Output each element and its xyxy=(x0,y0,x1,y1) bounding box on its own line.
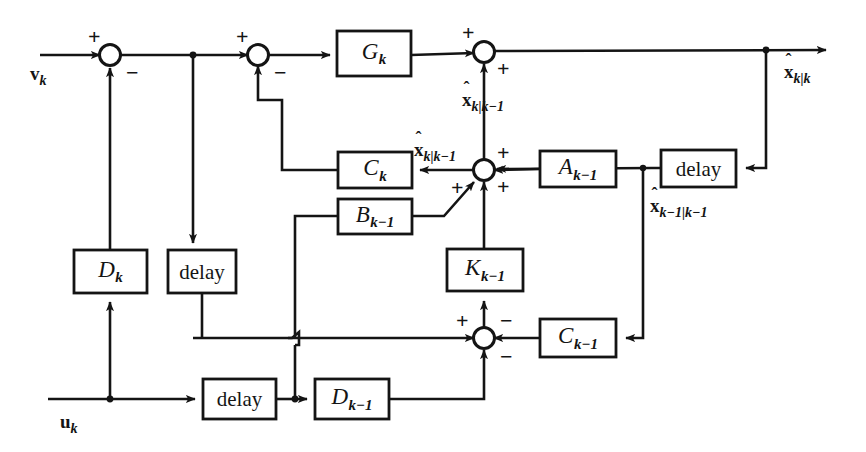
sign-sum1-1: − xyxy=(126,62,139,84)
summing-junction-sum1[interactable] xyxy=(100,45,121,66)
blocks-layer xyxy=(74,31,736,419)
branch-dot-uk xyxy=(107,396,114,403)
wire-Bk1-to-sum4 xyxy=(412,182,474,216)
sign-sum5-1: − xyxy=(500,310,513,332)
signal-label-x_k-1|k-1: ˆxk−1|k−1 xyxy=(650,196,708,220)
signal-label-x_k|k-1_a: ˆxk|k−1 xyxy=(462,90,504,114)
signal-label-x_k|k: ˆxk|k xyxy=(784,62,811,86)
block-label-D_k: Dk xyxy=(98,258,123,286)
summing-junction-sum2[interactable] xyxy=(248,45,269,66)
block-label-A_k-1: Ak−1 xyxy=(559,155,598,183)
wire-sum3-to-output xyxy=(495,50,826,51)
sign-sum3-1: + xyxy=(497,58,510,80)
wire-xk1k1-to-Ck1 xyxy=(626,168,643,338)
sign-sum4-1: + xyxy=(497,176,510,198)
block-label-delay_top_right: delay xyxy=(676,158,721,179)
summing-junction-sum5[interactable] xyxy=(474,328,495,349)
block-label-K_k-1: Kk−1 xyxy=(465,256,505,284)
wire-output-to-delay-right xyxy=(746,50,766,168)
signal-label-u_k: uk xyxy=(60,412,78,436)
wire-Gk-to-sum3 xyxy=(411,53,474,55)
wire-Ck-to-sum2 xyxy=(258,66,338,170)
block-label-delay_bottom: delay xyxy=(217,389,262,410)
block-label-C_k-1: Ck−1 xyxy=(558,324,598,352)
summing-junctions-layer xyxy=(100,42,495,349)
sign-sum4-2: + xyxy=(451,177,464,199)
wire-ukpath-to-Bk1 xyxy=(295,216,338,338)
wires xyxy=(40,47,826,403)
summing-junction-sum4[interactable] xyxy=(474,160,495,181)
block-label-G_k: Gk xyxy=(362,40,387,68)
block-label-C_k: Ck xyxy=(363,156,386,184)
block-diagram-canvas: GkCkBk−1Ak−1DkKk−1Ck−1Dk−1delaydelaydela… xyxy=(0,0,866,452)
sign-sum4-0: + xyxy=(497,142,510,164)
sign-sum2-1: − xyxy=(274,62,287,84)
sign-sum5-0: + xyxy=(456,310,469,332)
summing-junction-sum3[interactable] xyxy=(474,42,495,63)
sign-sum2-0: + xyxy=(236,26,249,48)
block-label-B_k-1: Bk−1 xyxy=(356,203,395,231)
sign-sum3-0: + xyxy=(462,22,475,44)
block-label-delay_mid_left: delay xyxy=(179,261,224,282)
sign-sum1-0: + xyxy=(88,26,101,48)
wire-Dk1-to-sum5 xyxy=(389,350,484,399)
wire-Ak1-to-sum4 xyxy=(494,169,540,170)
sign-sum5-2: − xyxy=(500,346,513,368)
block-label-D_k-1: Dk−1 xyxy=(331,385,372,413)
signal-label-x_k|k-1_b: ˆxk|k−1 xyxy=(414,140,456,164)
signal-label-v_k: vk xyxy=(30,64,47,88)
